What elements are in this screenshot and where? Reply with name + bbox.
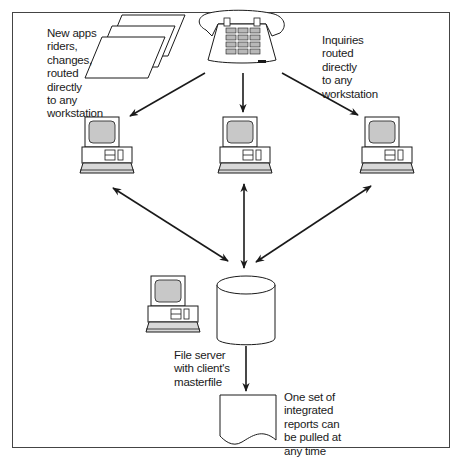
- report-label: One set of integrated reports can be pul…: [284, 391, 341, 458]
- inquiries-label: Inquiries routed directly to any worksta…: [322, 34, 378, 101]
- documents-label: New apps riders, changes, routed directl…: [47, 27, 103, 121]
- file-server-label: File server with client's masterfile: [174, 349, 230, 389]
- telephone-icon: [199, 10, 284, 63]
- server-computer: [146, 276, 200, 332]
- server-arrows: [113, 184, 371, 268]
- database-cylinder-icon: [217, 276, 275, 345]
- workstation-left: [80, 117, 134, 173]
- workstation-right: [360, 117, 414, 173]
- workstation-center: [218, 117, 272, 173]
- report-document-icon: [220, 395, 276, 444]
